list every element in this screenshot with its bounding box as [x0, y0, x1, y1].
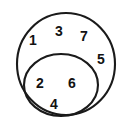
element-label-4: 4 [50, 97, 58, 111]
element-label-7: 7 [80, 29, 88, 43]
element-label-1: 1 [29, 33, 37, 47]
venn-diagram-shapes [0, 0, 131, 132]
element-label-6: 6 [68, 76, 76, 90]
venn-diagram: 1 3 7 5 2 6 4 [0, 0, 131, 132]
element-label-3: 3 [55, 24, 63, 38]
element-label-2: 2 [36, 76, 44, 90]
element-label-5: 5 [97, 52, 105, 66]
inner-set-circle [24, 54, 98, 116]
